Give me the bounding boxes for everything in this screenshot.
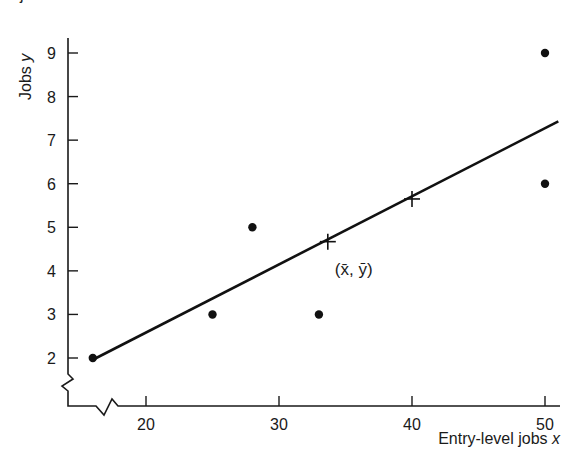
data-point: [89, 354, 97, 362]
y-axis-ticks: 23456789: [47, 45, 78, 367]
x-axis-label: Entry-level jobs x: [438, 430, 561, 447]
data-point: [541, 180, 549, 188]
y-tick-label: 3: [47, 306, 56, 323]
regression-line: [93, 121, 559, 359]
axes: [62, 38, 560, 415]
y-tick-label: 8: [47, 89, 56, 106]
mean-point-label: (x̄, ȳ): [335, 260, 373, 279]
annotations: (x̄, ȳ): [335, 260, 373, 279]
y-tick-label: 7: [47, 132, 56, 149]
y-axis-label: Jobs y: [17, 53, 34, 100]
y-tick-label: 5: [47, 219, 56, 236]
y-tick-label: 4: [47, 263, 56, 280]
y-tick-label: 9: [47, 45, 56, 62]
x-tick-label: 30: [270, 416, 288, 433]
data-point: [248, 223, 256, 231]
x-tick-label: 20: [137, 416, 155, 433]
x-tick-label: 40: [403, 416, 421, 433]
data-points: [89, 49, 550, 362]
axis-lines: [62, 38, 560, 415]
scatter-plot: 23456789 20304050 (x̄, ȳ) Jobs y Entry-l…: [0, 0, 580, 474]
data-point: [315, 310, 323, 318]
data-point: [541, 49, 549, 57]
data-point: [208, 310, 216, 318]
y-tick-label: 6: [47, 176, 56, 193]
y-tick-label: 2: [47, 350, 56, 367]
x-axis-ticks: 20304050: [137, 396, 554, 433]
